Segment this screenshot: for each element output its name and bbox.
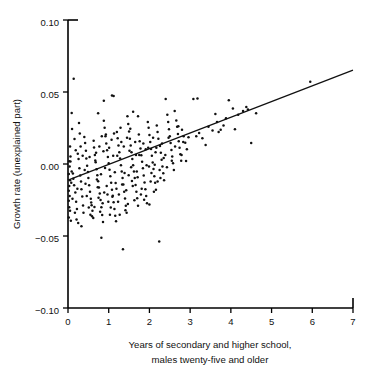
- data-point: [103, 120, 106, 123]
- data-point: [69, 160, 72, 163]
- data-point: [99, 199, 102, 202]
- data-point: [158, 169, 161, 172]
- data-point: [78, 122, 81, 125]
- data-point: [110, 139, 113, 142]
- data-point: [150, 172, 153, 175]
- data-point: [126, 115, 129, 118]
- data-point: [250, 142, 253, 145]
- data-point: [173, 169, 176, 172]
- data-point: [147, 126, 150, 128]
- data-point: [196, 97, 199, 100]
- data-point: [78, 167, 81, 170]
- data-point: [309, 80, 312, 83]
- data-point: [120, 170, 123, 173]
- data-point: [105, 185, 108, 188]
- data-point: [77, 158, 80, 161]
- data-point: [94, 159, 97, 162]
- x-tick-label: 6: [310, 316, 315, 327]
- data-point: [116, 154, 119, 157]
- data-point: [177, 125, 180, 128]
- data-point: [185, 160, 188, 163]
- data-point: [132, 164, 135, 167]
- data-point: [109, 213, 112, 216]
- data-point: [93, 206, 96, 209]
- y-tick-label: 0.00: [41, 161, 60, 172]
- data-point: [69, 155, 72, 158]
- data-point: [74, 211, 77, 214]
- data-point: [70, 112, 73, 115]
- data-point: [106, 193, 109, 196]
- data-point: [121, 177, 124, 180]
- data-point: [177, 133, 180, 136]
- data-point: [85, 157, 88, 160]
- data-point: [99, 211, 102, 214]
- data-point: [80, 225, 83, 228]
- data-point: [81, 195, 84, 198]
- data-point: [153, 163, 156, 166]
- data-point: [128, 130, 131, 133]
- data-point: [101, 214, 104, 217]
- data-point: [201, 137, 204, 140]
- data-point: [68, 199, 71, 202]
- data-point: [120, 141, 123, 144]
- x-tick-label: 5: [269, 316, 274, 327]
- data-point: [134, 177, 137, 180]
- data-point: [148, 134, 151, 137]
- data-point: [97, 197, 100, 200]
- data-point: [103, 191, 106, 194]
- data-point: [154, 181, 157, 184]
- data-point: [119, 126, 122, 128]
- data-point: [123, 190, 126, 193]
- data-point: [123, 172, 126, 175]
- data-point: [122, 248, 125, 251]
- data-point: [142, 167, 145, 170]
- data-point: [134, 141, 137, 144]
- data-point: [245, 106, 248, 109]
- data-point: [75, 200, 78, 203]
- data-point: [108, 169, 111, 172]
- data-point: [156, 124, 159, 127]
- data-point: [178, 147, 181, 150]
- data-point: [68, 216, 71, 219]
- data-point: [75, 218, 78, 221]
- data-point: [113, 208, 116, 211]
- data-point: [111, 196, 114, 199]
- data-point: [82, 211, 85, 214]
- data-point: [151, 154, 154, 157]
- data-point: [102, 221, 105, 224]
- y-tick-label: −0.10: [35, 305, 59, 316]
- data-point: [123, 145, 126, 148]
- data-point: [88, 156, 91, 159]
- data-point: [130, 166, 133, 169]
- data-point: [115, 220, 118, 223]
- data-point: [171, 155, 174, 158]
- data-point: [161, 165, 164, 168]
- data-point: [68, 185, 71, 188]
- data-point: [68, 206, 71, 209]
- data-point: [118, 193, 121, 196]
- data-point: [118, 151, 121, 154]
- data-point: [109, 175, 112, 178]
- data-point: [107, 200, 110, 203]
- data-point: [80, 188, 83, 191]
- data-point: [110, 181, 113, 184]
- data-point: [187, 136, 190, 139]
- data-point: [136, 176, 139, 179]
- x-tick-label: 2: [147, 316, 152, 327]
- data-point: [90, 198, 93, 201]
- data-point: [98, 145, 101, 148]
- data-point: [101, 135, 104, 138]
- data-point: [152, 137, 155, 140]
- data-point: [159, 177, 162, 180]
- data-point: [142, 174, 145, 177]
- data-point: [86, 165, 89, 168]
- scatter-plot-figure: −0.10−0.050.000.050.10 01234567 Years of…: [0, 0, 375, 379]
- data-point: [100, 173, 103, 176]
- data-point: [129, 144, 132, 147]
- data-point: [148, 165, 151, 168]
- data-point: [166, 166, 169, 169]
- data-point: [76, 188, 79, 191]
- data-point: [142, 142, 145, 145]
- data-point: [164, 98, 167, 101]
- y-tick-label: −0.05: [35, 233, 59, 244]
